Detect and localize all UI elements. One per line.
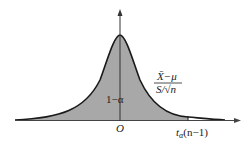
area-label: 1−α — [106, 93, 124, 105]
y-axis-arrow-icon — [118, 9, 123, 16]
statistic-numerator: X̄−μ — [156, 70, 177, 82]
critical-value-label: tα(n−1) — [176, 126, 208, 140]
t-distribution-diagram: O 1−α X̄−μ S/√n tα(n−1) — [0, 0, 246, 146]
x-axis-arrow-icon — [234, 118, 241, 123]
statistic-denominator: S/√n — [156, 83, 177, 95]
origin-label: O — [116, 122, 124, 134]
